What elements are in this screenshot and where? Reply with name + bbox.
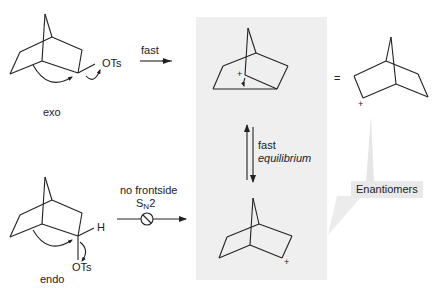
endo-norbornyl-tosylate bbox=[10, 177, 94, 261]
callout-tail-down bbox=[328, 196, 362, 235]
bottom-cation-charge: + bbox=[284, 258, 289, 267]
sn2-number: 2 bbox=[149, 197, 155, 209]
equilibrium-label: equilibrium bbox=[258, 153, 311, 164]
exo-leaving-group: OTs bbox=[102, 58, 122, 69]
endo-leaving-group: OTs bbox=[72, 262, 92, 273]
bridged-cation-charge: + bbox=[237, 70, 242, 79]
callout-tail-up bbox=[366, 116, 374, 182]
endo-hydrogen: H bbox=[97, 222, 105, 233]
exo-norbornyl-tosylate bbox=[10, 14, 100, 82]
reaction-scheme: OTs exo fast H OTs endo no frontside SN2… bbox=[0, 0, 436, 288]
classical-cation-top bbox=[354, 37, 428, 98]
equals-sign: = bbox=[334, 73, 340, 84]
sn2-label: SN2 bbox=[136, 198, 155, 211]
fast-label: fast bbox=[141, 45, 159, 56]
equilibrium-fast-label: fast bbox=[258, 140, 276, 151]
scheme-graphics bbox=[0, 0, 436, 288]
enantiomers-callout: Enantiomers bbox=[351, 181, 423, 198]
endo-label: endo bbox=[40, 274, 64, 285]
top-cation-charge: + bbox=[358, 100, 363, 109]
exo-label: exo bbox=[43, 107, 61, 118]
no-frontside-label: no frontside bbox=[120, 185, 177, 196]
